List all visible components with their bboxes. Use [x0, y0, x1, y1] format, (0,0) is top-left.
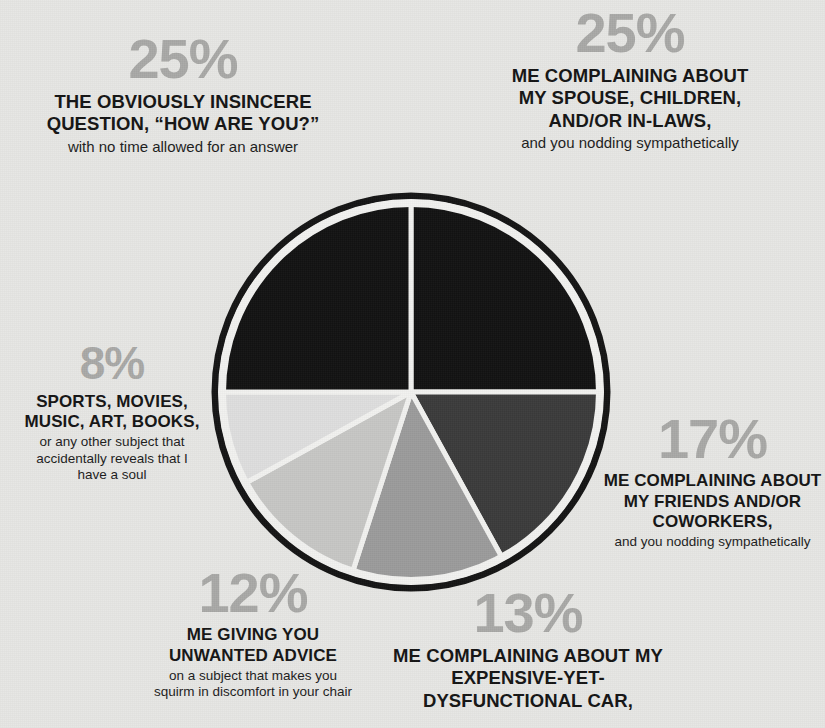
sub-line: or any other subject that	[6, 434, 218, 450]
callout-sub-insincere: with no time allowed for an answer	[18, 138, 348, 156]
sub-line: on a subject that makes you	[122, 668, 384, 684]
callout-insincere-question: 25% THE OBVIOUSLY INSINCERE QUESTION, “H…	[18, 32, 348, 156]
percent-value-advice: 12%	[122, 566, 384, 619]
callout-sub-friends: and you nodding sympathetically	[600, 534, 825, 550]
headline-line: AND/OR IN-LAWS,	[470, 110, 790, 132]
sub-line: accidentally reveals that I	[6, 451, 218, 467]
headline-line: COWORKERS,	[600, 512, 825, 532]
headline-line: UNWANTED ADVICE	[122, 646, 384, 666]
headline-line: QUESTION, “HOW ARE YOU?”	[18, 113, 348, 135]
headline-line: THE OBVIOUSLY INSINCERE	[18, 91, 348, 113]
callout-spouse-children-in-laws: 25% ME COMPLAINING ABOUT MY SPOUSE, CHIL…	[470, 6, 790, 152]
percent-value-sports: 8%	[6, 342, 218, 386]
headline-line: ME COMPLAINING ABOUT	[600, 471, 825, 491]
headline-line: MY FRIENDS AND/OR	[600, 492, 825, 512]
percent-value-friends: 17%	[600, 412, 825, 465]
pie-chart-svg	[205, 186, 617, 598]
callout-dysfunctional-car: 13% ME COMPLAINING ABOUT MY EXPENSIVE-YE…	[378, 586, 678, 712]
headline-line: MY SPOUSE, CHILDREN,	[470, 87, 790, 109]
callout-unwanted-advice: 12% ME GIVING YOU UNWANTED ADVICE on a s…	[122, 566, 384, 701]
callout-headline-spouse: ME COMPLAINING ABOUT MY SPOUSE, CHILDREN…	[470, 65, 790, 132]
callout-headline-insincere: THE OBVIOUSLY INSINCERE QUESTION, “HOW A…	[18, 91, 348, 135]
headline-line: SPORTS, MOVIES,	[6, 392, 218, 412]
callout-headline-sports: SPORTS, MOVIES, MUSIC, ART, BOOKS,	[6, 392, 218, 433]
pie-chart	[205, 186, 617, 598]
headline-line: MUSIC, ART, BOOKS,	[6, 412, 218, 432]
callout-headline-friends: ME COMPLAINING ABOUT MY FRIENDS AND/OR C…	[600, 471, 825, 532]
sub-line: have a soul	[6, 467, 218, 483]
percent-value-insincere: 25%	[18, 32, 348, 85]
callout-friends-coworkers: 17% ME COMPLAINING ABOUT MY FRIENDS AND/…	[600, 412, 825, 551]
callout-sports-movies-music: 8% SPORTS, MOVIES, MUSIC, ART, BOOKS, or…	[6, 342, 218, 484]
percent-value-spouse: 25%	[470, 6, 790, 59]
percent-value-car: 13%	[378, 586, 678, 639]
callout-headline-advice: ME GIVING YOU UNWANTED ADVICE	[122, 625, 384, 666]
headline-line: ME COMPLAINING ABOUT MY	[378, 645, 678, 667]
sub-line: squirm in discomfort in your chair	[122, 684, 384, 700]
callout-sub-spouse: and you nodding sympathetically	[470, 134, 790, 152]
callout-headline-car: ME COMPLAINING ABOUT MY EXPENSIVE-YET-DY…	[378, 645, 678, 712]
headline-line: ME COMPLAINING ABOUT	[470, 65, 790, 87]
callout-sub-sports: or any other subject that accidentally r…	[6, 434, 218, 483]
headline-line: ME GIVING YOU	[122, 625, 384, 645]
headline-line: EXPENSIVE-YET-DYSFUNCTIONAL CAR,	[378, 667, 678, 711]
callout-sub-advice: on a subject that makes you squirm in di…	[122, 668, 384, 701]
